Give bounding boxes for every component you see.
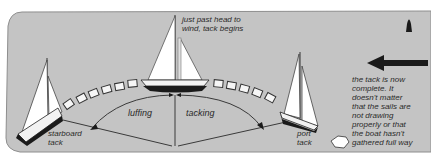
luffing-label: luffing <box>128 108 152 118</box>
tacking-label: tacking <box>186 108 215 118</box>
starboard-tack-label-line1: starboard <box>48 129 82 138</box>
starboard-tack-label-line2: tack <box>48 138 64 147</box>
note-line: the tack is now <box>352 75 406 84</box>
head-to-wind-label-line1: just past head to <box>181 15 241 24</box>
port-tack-label-line1: port <box>296 129 312 138</box>
note-line: doesn't matter <box>352 93 403 102</box>
note-line: the boat hasn't <box>352 129 405 138</box>
note-line: properly or that <box>351 120 407 129</box>
centre-hull-deck <box>141 80 209 86</box>
port-tack-label-line2: tack <box>297 138 313 147</box>
head-to-wind-label-line2: wind, tack begins <box>182 24 243 33</box>
centre-mast-strip <box>178 38 181 80</box>
note-line: gathered full way <box>352 138 413 147</box>
note-line: not drawing <box>352 111 394 120</box>
tacking-diagram: just past head to wind, tack begins luff… <box>0 0 431 158</box>
note-line: complete. It <box>352 84 394 93</box>
note-line: that the sails are <box>352 102 411 111</box>
